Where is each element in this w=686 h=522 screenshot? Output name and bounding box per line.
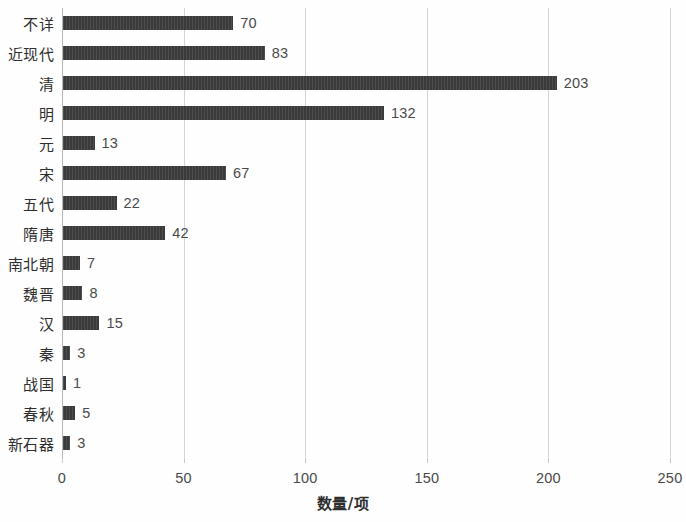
bar <box>63 316 99 330</box>
bar-row: 五代22 <box>62 188 670 218</box>
gridline <box>670 8 671 458</box>
x-axis-title: 数量/项 <box>0 492 686 513</box>
x-tick-label: 50 <box>175 470 192 486</box>
x-tick-label: 0 <box>58 470 66 486</box>
tick-mark <box>548 458 549 463</box>
x-tick-label: 200 <box>536 470 561 486</box>
bar-value-label: 13 <box>102 135 119 151</box>
category-label: 明 <box>39 103 55 124</box>
bar-row: 秦3 <box>62 338 670 368</box>
bar <box>63 346 70 360</box>
bar-value-label: 83 <box>272 45 289 61</box>
x-tick-label: 250 <box>658 470 683 486</box>
category-label: 秦 <box>39 343 55 364</box>
category-label: 元 <box>39 133 55 154</box>
bar <box>63 106 384 120</box>
tick-mark <box>670 458 671 463</box>
tick-mark <box>305 458 306 463</box>
bar-value-label: 3 <box>77 435 85 451</box>
bar-value-label: 132 <box>391 105 416 121</box>
bar <box>63 76 557 90</box>
tick-mark <box>184 458 185 463</box>
category-label: 宋 <box>39 163 55 184</box>
category-label: 清 <box>39 73 55 94</box>
bar-value-label: 3 <box>77 345 85 361</box>
bar <box>63 166 226 180</box>
category-label: 新石器 <box>8 433 55 454</box>
bar-row: 春秋5 <box>62 398 670 428</box>
category-label: 不详 <box>23 13 54 34</box>
bar <box>63 46 265 60</box>
bar <box>63 196 117 210</box>
bar-value-label: 67 <box>233 165 250 181</box>
bar-chart: 050100150200250 不详70近现代83清203明132元13宋67五… <box>0 0 686 522</box>
bar <box>63 16 233 30</box>
category-label: 战国 <box>23 373 54 394</box>
bar <box>63 376 66 390</box>
x-tick-label: 150 <box>414 470 439 486</box>
plot-area: 050100150200250 不详70近现代83清203明132元13宋67五… <box>62 8 670 458</box>
bar-value-label: 203 <box>564 75 589 91</box>
category-label: 汉 <box>39 313 55 334</box>
bar-value-label: 15 <box>106 315 123 331</box>
bar-row: 近现代83 <box>62 38 670 68</box>
bar-row: 南北朝7 <box>62 248 670 278</box>
bar <box>63 286 82 300</box>
bar-value-label: 8 <box>89 285 97 301</box>
bar <box>63 256 80 270</box>
category-label: 隋唐 <box>23 223 54 244</box>
bar-value-label: 22 <box>124 195 141 211</box>
bar-row: 明132 <box>62 98 670 128</box>
category-label: 南北朝 <box>8 253 55 274</box>
bar-value-label: 42 <box>172 225 189 241</box>
category-label: 魏晋 <box>23 283 54 304</box>
bar-row: 元13 <box>62 128 670 158</box>
tick-mark <box>427 458 428 463</box>
x-tick-label: 100 <box>293 470 318 486</box>
bar <box>63 436 70 450</box>
bar-row: 汉15 <box>62 308 670 338</box>
category-label: 五代 <box>23 193 54 214</box>
category-label: 近现代 <box>8 43 55 64</box>
bar <box>63 136 95 150</box>
category-label: 春秋 <box>23 403 54 424</box>
bar-value-label: 1 <box>73 375 81 391</box>
bar-row: 隋唐42 <box>62 218 670 248</box>
bar-row: 不详70 <box>62 8 670 38</box>
bar <box>63 226 165 240</box>
bar-row: 宋67 <box>62 158 670 188</box>
bar-row: 战国1 <box>62 368 670 398</box>
bar-value-label: 5 <box>82 405 90 421</box>
bar-row: 新石器3 <box>62 428 670 458</box>
tick-mark <box>62 458 63 463</box>
bar-value-label: 7 <box>87 255 95 271</box>
bar-value-label: 70 <box>240 15 257 31</box>
bar <box>63 406 75 420</box>
bar-row: 魏晋8 <box>62 278 670 308</box>
bar-row: 清203 <box>62 68 670 98</box>
